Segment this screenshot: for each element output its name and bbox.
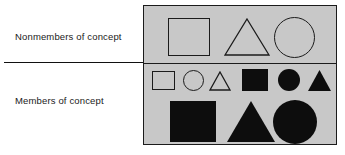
shape-triangle-filled-large — [227, 101, 275, 142]
shape-square-filled-small — [242, 69, 268, 91]
shape-circle-filled-large — [273, 100, 317, 144]
nonmembers-region — [144, 6, 336, 63]
nonmembers-label: Nonmembers of concept — [15, 32, 122, 42]
shape-triangle-filled-small — [308, 70, 331, 91]
members-label: Members of concept — [15, 96, 104, 106]
stimulus-panel — [143, 5, 337, 145]
shape-triangle-open-small — [209, 71, 231, 91]
shape-square-open-large — [168, 18, 210, 56]
shape-square-filled-large — [170, 101, 216, 142]
label-divider-rule — [4, 62, 146, 63]
concept-diagram: Nonmembers of concept Members of concept — [0, 0, 345, 155]
shape-circle-open-small — [183, 70, 204, 91]
shape-triangle-open-large — [224, 18, 270, 56]
shape-square-open-small — [152, 71, 175, 90]
members-region — [144, 64, 336, 144]
shape-circle-open-large — [274, 17, 315, 58]
shape-circle-filled-small — [278, 69, 300, 91]
